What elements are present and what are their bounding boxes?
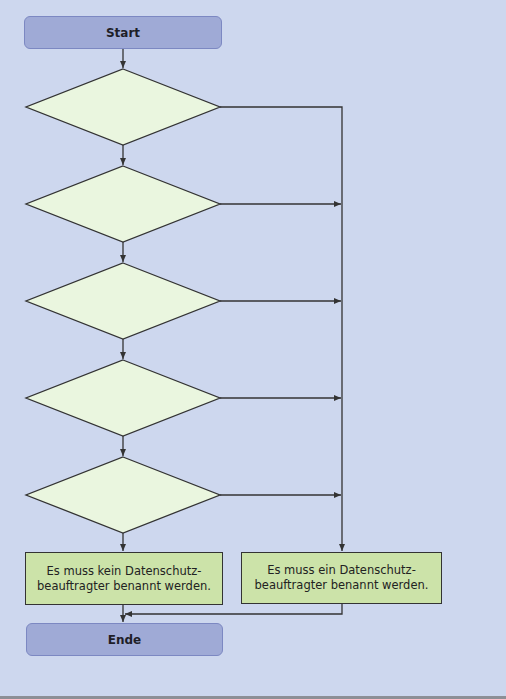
result-no-officer: Es muss kein Datenschutz- beauftragter b… xyxy=(25,552,223,605)
result-officer-required-text: Es muss ein Datenschutz- beauftragter be… xyxy=(255,563,429,593)
end-node: Ende xyxy=(26,623,223,656)
decision-4 xyxy=(26,360,220,436)
result-no-officer-text: Es muss kein Datenschutz- beauftragter b… xyxy=(37,564,211,594)
end-label: Ende xyxy=(108,633,141,647)
result-officer-required: Es muss ein Datenschutz- beauftragter be… xyxy=(241,552,442,604)
decision-2 xyxy=(26,166,220,242)
decision-3 xyxy=(26,263,220,339)
decision-5 xyxy=(26,457,220,533)
decision-1 xyxy=(26,69,220,145)
